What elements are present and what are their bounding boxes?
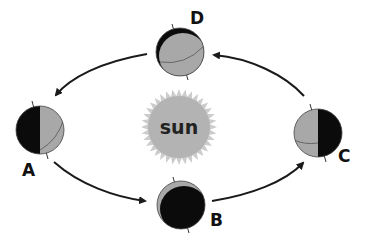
arrow-d-to-a	[56, 54, 147, 95]
position-label-b: B	[210, 210, 223, 230]
earth-position-b: B	[157, 177, 223, 233]
arrow-b-to-c	[212, 163, 303, 201]
arrow-a-to-b	[54, 162, 145, 201]
earth-position-a: A	[16, 101, 64, 180]
night-side	[16, 106, 40, 154]
position-label-c: C	[338, 146, 350, 166]
sun: sun	[141, 89, 217, 165]
position-label-a: A	[22, 160, 36, 180]
earth-position-c: C	[294, 104, 350, 166]
earth-position-d: D	[156, 8, 207, 80]
position-label-d: D	[190, 8, 204, 28]
arrow-c-to-d	[214, 55, 304, 96]
orbit-diagram: sun A B C	[0, 0, 369, 242]
sun-label: sun	[160, 116, 198, 138]
